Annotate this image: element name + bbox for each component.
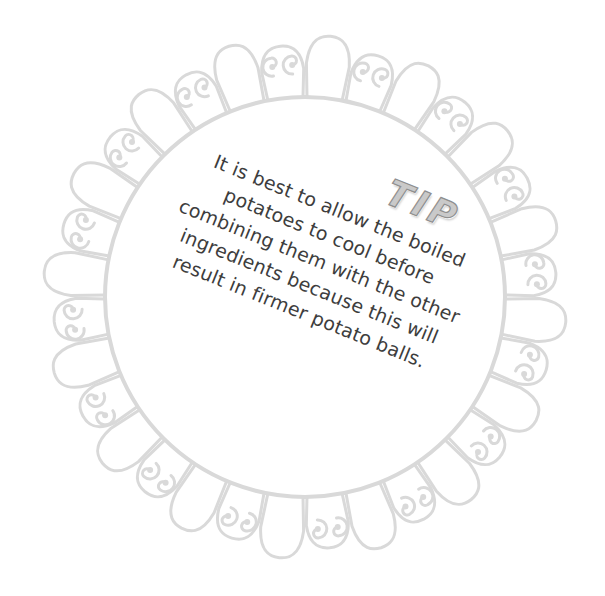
curl-dot-icon: [289, 62, 295, 68]
curl-dot-icon: [488, 433, 494, 439]
curl-dot-icon: [335, 524, 341, 530]
curl-dot-icon: [527, 352, 533, 358]
curl-dot-icon: [225, 513, 231, 519]
curl-dot-icon: [502, 176, 508, 182]
curl-dot-icon: [475, 449, 481, 455]
curl-dot-icon: [83, 217, 89, 223]
curl-dot-icon: [420, 494, 426, 500]
curl-dot-icon: [379, 75, 385, 81]
curl-dot-icon: [72, 327, 78, 333]
curl-dot-icon: [116, 155, 122, 161]
curl-dot-icon: [202, 85, 208, 91]
curl-dot-icon: [403, 503, 409, 509]
plain-petal: [261, 494, 304, 558]
curl-dot-icon: [360, 69, 366, 75]
curl-dot-icon: [147, 467, 153, 473]
curl-dot-icon: [315, 526, 321, 532]
curl-dot-icon: [441, 108, 447, 114]
curl-dot-icon: [269, 64, 275, 70]
curl-dot-icon: [244, 519, 250, 525]
curly-petal: [54, 298, 108, 340]
curl-dot-icon: [93, 395, 99, 401]
curl-dot-icon: [534, 281, 540, 287]
curl-dot-icon: [70, 307, 76, 313]
plain-petal: [306, 36, 349, 100]
curl-dot-icon: [77, 236, 83, 242]
curl-dot-icon: [129, 139, 135, 145]
plain-petal: [44, 253, 108, 296]
curl-dot-icon: [521, 371, 527, 377]
curly-petal: [262, 46, 304, 100]
curl-dot-icon: [163, 480, 169, 486]
curly-petal: [306, 494, 348, 548]
curl-dot-icon: [457, 121, 463, 127]
curl-dot-icon: [511, 194, 517, 200]
curl-dot-icon: [102, 412, 108, 418]
